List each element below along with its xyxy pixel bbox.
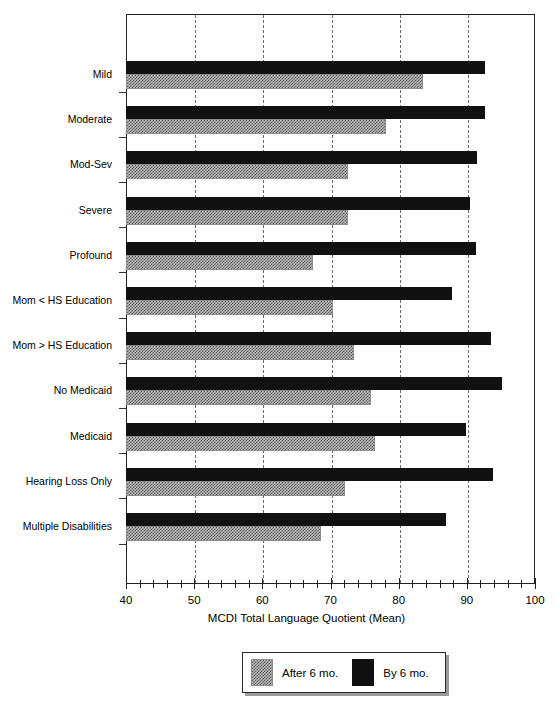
y-axis-label-moderate: Moderate <box>68 114 112 125</box>
y-axis-label-mod-sev: Mod-Sev <box>70 159 112 170</box>
y-axis-tick <box>119 182 126 183</box>
bar-by-6-mo <box>126 423 466 436</box>
bar-by-6-mo <box>126 61 485 74</box>
x-axis-ticks: 405060708090100 <box>126 583 536 613</box>
x-axis-minor-tick <box>181 580 182 588</box>
x-axis-tick-label-100: 100 <box>525 594 544 606</box>
bar-after-6-mo <box>126 300 333 315</box>
x-axis-major-tick <box>399 578 400 589</box>
bar-after-6-mo <box>126 74 423 89</box>
bar-by-6-mo <box>126 468 493 481</box>
x-axis-minor-tick <box>276 580 277 588</box>
x-axis-minor-tick <box>412 580 413 588</box>
x-axis-minor-tick <box>371 580 372 588</box>
x-axis-major-tick <box>467 578 468 589</box>
y-axis-tick <box>119 408 126 409</box>
y-axis-tick <box>119 92 126 93</box>
x-axis-major-tick <box>262 578 263 589</box>
bar-by-6-mo <box>126 242 476 255</box>
y-axis-label-medicaid: Medicaid <box>70 431 112 442</box>
bar-by-6-mo <box>126 287 452 300</box>
y-axis-tick <box>119 363 126 364</box>
x-axis-minor-tick <box>303 580 304 588</box>
x-axis-minor-tick <box>453 580 454 588</box>
y-axis-label-mom-hs-education: Mom > HS Education <box>12 340 112 351</box>
x-axis-tick-label-40: 40 <box>120 594 133 606</box>
x-axis-minor-tick <box>167 580 168 588</box>
y-axis-label-mom-hs-education: Mom < HS Education <box>12 295 112 306</box>
x-axis-minor-tick <box>249 580 250 588</box>
x-axis-minor-tick <box>344 580 345 588</box>
bar-after-6-mo <box>126 164 348 179</box>
x-axis-tick-label-70: 70 <box>324 594 337 606</box>
chart-legend: After 6 mo. By 6 mo. <box>242 652 446 693</box>
y-axis-tick <box>119 498 126 499</box>
x-axis-minor-tick <box>153 580 154 588</box>
x-axis-tick-label-50: 50 <box>188 594 201 606</box>
x-axis-minor-tick <box>290 580 291 588</box>
x-axis-major-tick <box>535 578 536 589</box>
x-axis-tick-label-90: 90 <box>460 594 473 606</box>
x-axis-tick-label-60: 60 <box>256 594 269 606</box>
y-axis-tick <box>119 272 126 273</box>
bar-by-6-mo <box>126 513 446 526</box>
x-axis-minor-tick <box>494 580 495 588</box>
bar-by-6-mo <box>126 377 502 390</box>
bar-by-6-mo <box>126 332 491 345</box>
y-axis-tick <box>119 227 126 228</box>
y-axis-label-mild: Mild <box>93 69 112 80</box>
bar-after-6-mo <box>126 119 386 134</box>
x-axis-minor-tick <box>140 580 141 588</box>
bar-after-6-mo <box>126 481 345 496</box>
x-axis-major-tick <box>194 578 195 589</box>
y-axis-tick <box>119 318 126 319</box>
y-axis: MildModerateMod-SevSevereProfoundMom < H… <box>0 14 126 583</box>
x-axis-title: MCDI Total Language Quotient (Mean) <box>0 612 559 624</box>
y-axis-label-no-medicaid: No Medicaid <box>54 385 112 396</box>
bar-by-6-mo <box>126 106 485 119</box>
bar-after-6-mo <box>126 390 371 405</box>
x-axis-minor-tick <box>221 580 222 588</box>
y-axis-label-severe: Severe <box>79 205 112 216</box>
bar-after-6-mo <box>126 345 354 360</box>
legend-swatch-black-icon <box>352 659 374 686</box>
bar-after-6-mo <box>126 526 321 541</box>
y-axis-label-multiple-disabilities: Multiple Disabilities <box>23 521 112 532</box>
chart-page: MildModerateMod-SevSevereProfoundMom < H… <box>0 0 559 708</box>
y-axis-tick <box>119 544 126 545</box>
legend-entry-after-6-mo: After 6 mo. <box>251 659 352 686</box>
x-axis-minor-tick <box>426 580 427 588</box>
x-axis-minor-tick <box>480 580 481 588</box>
bar-after-6-mo <box>126 436 375 451</box>
legend-swatch-gray-icon <box>251 659 273 686</box>
x-axis-minor-tick <box>317 580 318 588</box>
bar-by-6-mo <box>126 151 477 164</box>
y-axis-label-profound: Profound <box>69 250 112 261</box>
bars-layer <box>126 14 535 583</box>
bar-after-6-mo <box>126 255 313 270</box>
y-axis-tick <box>119 137 126 138</box>
x-axis-minor-tick <box>521 580 522 588</box>
x-axis-minor-tick <box>440 580 441 588</box>
x-axis-tick-label-80: 80 <box>392 594 405 606</box>
y-axis-tick <box>119 453 126 454</box>
legend-entry-by-6-mo: By 6 mo. <box>352 659 442 686</box>
x-axis-minor-tick <box>508 580 509 588</box>
x-axis-minor-tick <box>358 580 359 588</box>
x-axis-major-tick <box>331 578 332 589</box>
x-axis-minor-tick <box>385 580 386 588</box>
x-axis-major-tick <box>126 578 127 589</box>
bar-by-6-mo <box>126 197 470 210</box>
x-axis-minor-tick <box>208 580 209 588</box>
x-axis-minor-tick <box>235 580 236 588</box>
legend-label-by-6-mo: By 6 mo. <box>383 667 428 679</box>
y-axis-label-hearing-loss-only: Hearing Loss Only <box>26 476 112 487</box>
legend-label-after-6-mo: After 6 mo. <box>282 667 338 679</box>
bar-after-6-mo <box>126 210 348 225</box>
